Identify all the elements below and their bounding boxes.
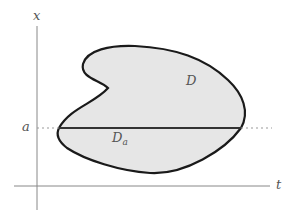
subregion-da-label: Da [112,131,128,147]
region-d [58,46,245,173]
diagram-canvas [0,0,295,215]
x-axis-label: x [33,9,40,22]
t-axis-label: t [276,178,281,191]
level-a-label: a [22,120,30,133]
subregion-da-subscript: a [122,137,127,147]
region-d-label: D [186,74,196,87]
subregion-da-main: D [112,130,122,145]
